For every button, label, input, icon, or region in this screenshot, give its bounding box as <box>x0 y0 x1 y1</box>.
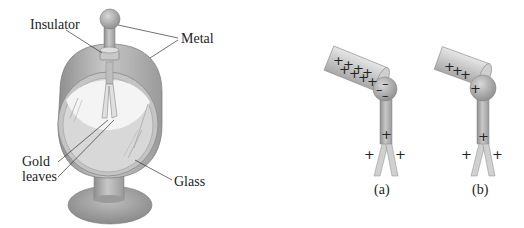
caption-a: (a) <box>374 182 390 198</box>
leaf-a-charge-right: + <box>395 148 406 161</box>
ball-a-charge: – <box>382 89 389 102</box>
stem-a-charge: + <box>381 128 392 141</box>
label-gold-line2: leaves <box>22 169 57 184</box>
leader-metal-case <box>150 40 178 58</box>
leaf-b-charge-left: + <box>461 148 472 161</box>
leader-metal-ball <box>118 25 178 38</box>
leaf-a-charge-left: + <box>364 148 375 161</box>
rod-b-charge: + <box>460 68 471 81</box>
top-ball <box>100 9 120 29</box>
label-metal: Metal <box>181 31 214 46</box>
leaf-b-charge-right: + <box>492 148 503 161</box>
label-gold-line1: Gold <box>22 154 50 169</box>
electroscope-figure: Insulator Metal Gold leaves Glass + + + … <box>0 0 524 228</box>
label-insulator: Insulator <box>30 17 80 32</box>
figure-drawing <box>0 0 524 228</box>
stem-b-charge: + <box>478 130 489 143</box>
label-glass: Glass <box>174 174 205 189</box>
inner-rod <box>106 62 113 84</box>
caption-b: (b) <box>472 182 488 198</box>
ball-b-charge: + <box>470 82 481 95</box>
electroscope <box>58 9 178 224</box>
